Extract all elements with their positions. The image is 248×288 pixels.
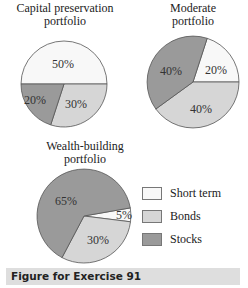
- moderate-label-stocks: 40%: [160, 64, 182, 78]
- legend-swatch-bonds: [142, 210, 162, 223]
- legend-short-term: Short term: [142, 186, 221, 200]
- wealth-label-stocks: 65%: [55, 194, 77, 208]
- wealth-label-bonds: 30%: [87, 233, 109, 247]
- legend-swatch-short-term: [142, 187, 162, 200]
- legend-swatch-stocks: [142, 233, 162, 246]
- capital-label-stocks: 20%: [24, 93, 46, 107]
- figure-caption: Figure for Exercise 91: [6, 268, 240, 285]
- capital-label-bonds: 30%: [65, 97, 87, 111]
- capital-label-short: 50%: [52, 57, 74, 71]
- wealth-label-short: 5%: [116, 208, 132, 222]
- legend-bonds: Bonds: [142, 209, 201, 223]
- pie-charts: 50% 30% 20% 20% 40% 40% 5% 30% 65%: [0, 0, 248, 288]
- legend-label-stocks: Stocks: [170, 232, 202, 247]
- moderate-label-bonds: 40%: [190, 102, 212, 116]
- legend-label-bonds: Bonds: [170, 209, 201, 224]
- moderate-label-short: 20%: [205, 63, 227, 77]
- legend-stocks: Stocks: [142, 232, 202, 246]
- legend-label-short-term: Short term: [170, 186, 221, 201]
- capital-pie: [21, 41, 107, 127]
